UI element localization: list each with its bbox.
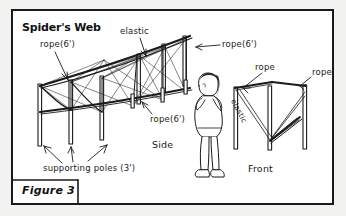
leader-arrows-supporting-poles bbox=[44, 145, 107, 163]
front-elastic-band-shadow bbox=[271, 119, 302, 143]
arrow-rope-middle bbox=[142, 102, 152, 114]
label-rope-middle: rope(6') bbox=[150, 115, 185, 124]
arrow-support-1 bbox=[44, 146, 62, 163]
page-title: Spider's Web bbox=[22, 22, 101, 33]
figure-page: Spider's Web rope(6') elastic rope(6') r… bbox=[0, 0, 346, 216]
figure-caption: Figure 3 bbox=[22, 185, 75, 196]
person-figure bbox=[195, 73, 224, 177]
label-front-rope-b: rope bbox=[312, 68, 332, 77]
label-rope-left: rope(6') bbox=[40, 40, 75, 49]
label-front-view: Front bbox=[248, 164, 273, 174]
side-rope-bottom bbox=[40, 88, 190, 112]
front-elastic-band bbox=[270, 117, 300, 141]
label-rope-top-right: rope(6') bbox=[222, 40, 257, 49]
label-side-view: Side bbox=[152, 140, 173, 150]
label-elastic-top: elastic bbox=[120, 27, 149, 36]
label-front-rope-a: rope bbox=[255, 63, 275, 72]
arrow-rope-topright-head-b bbox=[196, 47, 202, 50]
side-pole-near-1 bbox=[38, 84, 42, 146]
arrow-rope-left bbox=[55, 52, 68, 80]
label-supporting-poles: supporting poles (3') bbox=[43, 164, 135, 173]
arrow-support-2-head-a bbox=[68, 147, 71, 153]
